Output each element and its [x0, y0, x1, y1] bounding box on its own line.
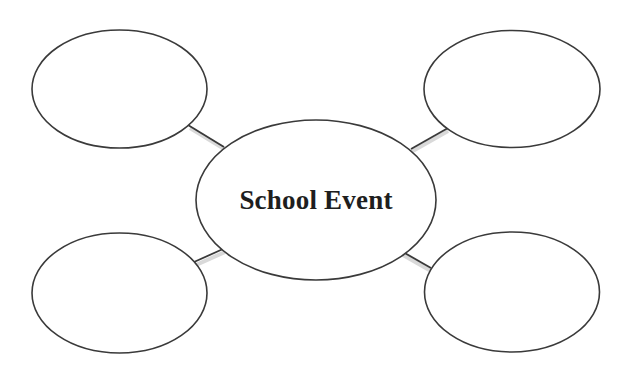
bubble-top-right-text[interactable]	[424, 30, 600, 147]
bubble-bottom-left-text[interactable]	[32, 233, 207, 353]
center-topic-label: School Event	[196, 120, 436, 280]
bubble-top-left-text[interactable]	[32, 30, 207, 148]
bubble-bottom-right-text[interactable]	[425, 232, 600, 352]
